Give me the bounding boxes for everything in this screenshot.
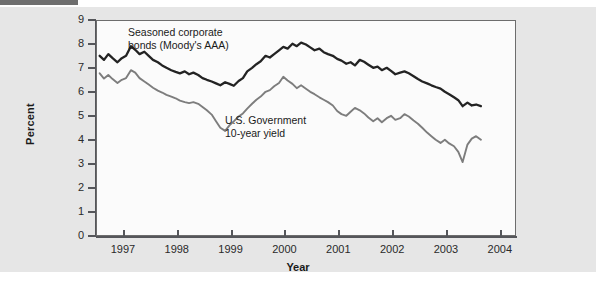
x-axis-tick-label: 1999 [211,243,251,255]
y-axis-tick [88,115,96,117]
y-axis-tick [88,67,96,69]
x-axis-tick-label: 2004 [480,243,520,255]
x-axis-tick-label: 1997 [103,243,143,255]
x-axis-tick-label: 1998 [157,243,197,255]
header-accent-bar [0,0,78,5]
y-axis-tick-label: 2 [62,182,84,193]
figure-root: 0123456789 Percent 199719981999200020012… [0,0,596,287]
line-corporate-bonds [100,43,481,107]
x-axis-tick [338,230,340,238]
y-axis-tick-label: 7 [62,62,84,73]
y-axis-tick [88,235,96,237]
y-axis-tick-label: 3 [62,158,84,169]
x-axis-title: Year [0,261,596,273]
y-axis-tick [88,19,96,21]
y-axis-title: Percent [24,84,36,164]
x-axis-tick-label: 2002 [372,243,412,255]
y-axis-tick [88,211,96,213]
x-axis-tick-label: 2003 [426,243,466,255]
x-axis-line [96,236,517,238]
x-axis-tick [284,230,286,238]
y-axis-tick [88,187,96,189]
x-axis-tick [392,230,394,238]
x-axis-tick-label: 2001 [318,243,358,255]
x-axis-tick [446,230,448,238]
x-axis-tick [231,230,233,238]
y-axis-tick [88,163,96,165]
y-axis-tick [88,43,96,45]
y-axis-tick-label: 8 [62,38,84,49]
y-axis-tick-label: 5 [62,110,84,121]
annotation-corporate-bonds: Seasoned corporate bonds (Moody's AAA) [128,26,229,51]
y-axis-tick-label: 4 [62,134,84,145]
x-axis-tick [177,230,179,238]
x-axis-tick [123,230,125,238]
y-axis-tick [88,91,96,93]
x-axis-tick [500,230,502,238]
y-axis-tick-label: 1 [62,206,84,217]
annotation-government-yield: U.S. Government 10-year yield [225,114,306,139]
y-axis-tick-label: 0 [62,230,84,241]
x-axis-tick-label: 2000 [264,243,304,255]
y-axis-tick-label: 6 [62,86,84,97]
y-axis-tick [88,139,96,141]
y-axis-tick-label: 9 [62,14,84,25]
series-canvas [97,21,517,237]
